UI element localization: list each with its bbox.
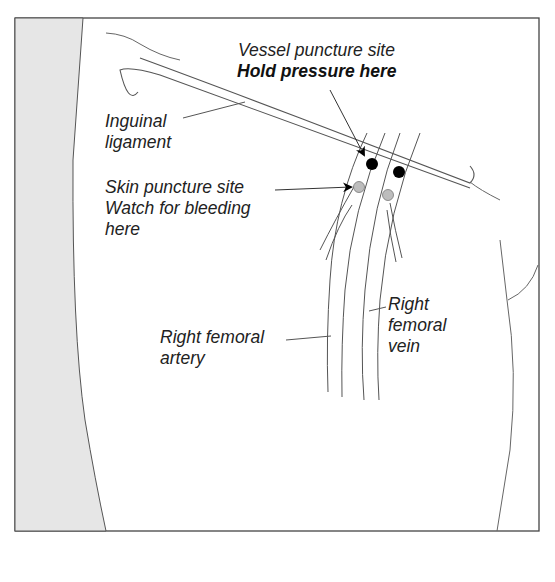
vessel-puncture-label-line2: Hold pressure here: [237, 62, 397, 81]
skin-puncture-vein-dot: [383, 190, 394, 201]
femoral-vein-label-line1: Right: [388, 295, 429, 314]
femoral-artery-label-line1: Right femoral: [160, 328, 264, 347]
femoral-vein-label-line3: vein: [388, 337, 420, 356]
femoral-anatomy-diagram: [0, 0, 555, 582]
femoral-vein-label-line2: femoral: [388, 316, 446, 335]
femoral-artery-label-line2: artery: [160, 349, 205, 368]
skin-puncture-label-line1: Skin puncture site: [105, 178, 244, 197]
inguinal-ligament-label-line2: ligament: [105, 133, 171, 152]
skin-puncture-artery-dot: [354, 182, 365, 193]
frame-border: [15, 18, 539, 531]
vessel-puncture-artery-dot: [366, 158, 378, 170]
inguinal-ligament-label-line1: Inguinal: [105, 112, 166, 131]
skin-puncture-label-line3: here: [105, 220, 140, 239]
skin-puncture-label-line2: Watch for bleeding: [105, 199, 251, 218]
vessel-puncture-label-line1: Vessel puncture site: [238, 41, 395, 60]
vessel-puncture-vein-dot: [393, 166, 405, 178]
